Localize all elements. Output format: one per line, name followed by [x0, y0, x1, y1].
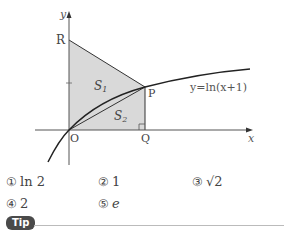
graph-figure: y R P O Q x S1 S2 y=ln(x+1)	[0, 0, 288, 175]
x-axis-label: x	[248, 132, 255, 145]
option-text: 1	[112, 174, 120, 189]
option-number: ⑤	[98, 197, 109, 211]
point-r-label: R	[56, 33, 66, 47]
option-number: ②	[98, 175, 109, 189]
option-number: ①	[6, 175, 17, 189]
y-axis-label: y	[59, 8, 67, 21]
option-5[interactable]: ⑤e	[98, 196, 120, 211]
option-2[interactable]: ②1	[98, 174, 120, 189]
tip-badge: Tip	[6, 216, 35, 230]
point-q-label: Q	[141, 132, 150, 145]
y-axis-arrow-icon	[67, 11, 72, 18]
option-text: ln 2	[20, 174, 45, 189]
option-text: e	[112, 196, 120, 211]
option-text: √2	[206, 174, 223, 189]
option-text: 2	[20, 196, 28, 211]
point-o-label: O	[70, 132, 79, 145]
curve-equation-label: y=ln(x+1)	[189, 81, 247, 94]
tip-divider	[34, 225, 284, 226]
option-number: ③	[192, 175, 203, 189]
point-p-label: P	[148, 87, 156, 100]
tip-section: Tip	[6, 216, 284, 232]
option-4[interactable]: ④2	[6, 196, 28, 211]
option-3[interactable]: ③√2	[192, 174, 223, 189]
option-number: ④	[6, 197, 17, 211]
option-1[interactable]: ①ln 2	[6, 174, 45, 189]
